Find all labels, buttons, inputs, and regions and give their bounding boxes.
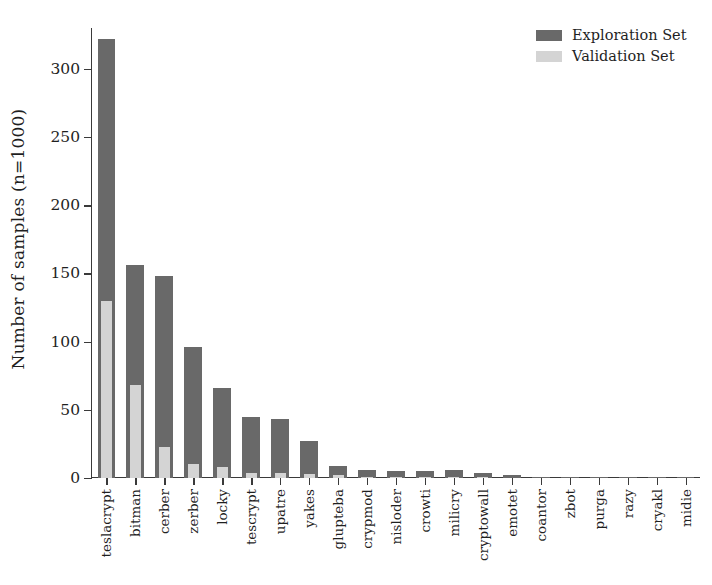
y-axis-tick (84, 342, 92, 343)
x-axis-tick (657, 478, 658, 485)
bar-validation-cerber (159, 447, 170, 478)
x-axis-tick (164, 478, 165, 485)
chart-legend: Exploration SetValidation Set (536, 27, 686, 64)
x-axis-tick (251, 478, 252, 485)
x-axis-tick-label: purga (592, 489, 606, 585)
y-axis-tick-label: 300 (30, 60, 80, 78)
bar-validation-locky (217, 467, 228, 478)
x-axis-tick-label-text: glupteba (330, 489, 346, 549)
y-axis-tick-label: 250 (30, 128, 80, 146)
y-axis-tick (84, 478, 92, 479)
x-axis-tick (512, 478, 513, 485)
x-axis-tick-label-text: teslacrypt (98, 489, 114, 557)
y-axis-tick (84, 69, 92, 70)
legend-swatch-icon (536, 30, 562, 41)
x-axis-tick-label: nisloder (389, 489, 403, 585)
bar-exploration-tescrypt (242, 417, 260, 478)
x-axis-tick (396, 478, 397, 485)
x-axis-tick-label: zerber (186, 489, 200, 585)
bar-chart-figure: Number of samples (n=1000) 0501001502002… (0, 0, 712, 585)
x-axis-tick-label: cryakl (650, 489, 664, 585)
legend-swatch-icon (536, 51, 562, 62)
x-axis-tick-label: tescrypt (244, 489, 258, 585)
x-axis-tick-label-text: nisloder (388, 489, 404, 544)
x-axis-tick-label: glupteba (331, 489, 345, 585)
x-axis-tick-label: coantor (534, 489, 548, 585)
x-axis-tick-label-text: midie (678, 489, 694, 527)
bar-exploration-yakes (300, 441, 318, 478)
x-axis-tick-label: yakes (302, 489, 316, 585)
x-axis-tick-label-text: upatre (272, 489, 288, 534)
x-axis-tick (193, 478, 194, 485)
bars-layer (92, 28, 700, 478)
x-axis-tick-label-text: zbot (562, 489, 578, 518)
legend-item: Validation Set (536, 48, 686, 64)
x-axis-tick-label: zbot (563, 489, 577, 585)
x-axis-tick-label-text: crypmod (359, 489, 375, 549)
x-axis-tick-label: cryptowall (476, 489, 490, 585)
x-axis-tick-label: cerber (157, 489, 171, 585)
y-axis-tick (84, 137, 92, 138)
x-axis-tick (599, 478, 600, 485)
x-axis-tick-label-text: purga (591, 489, 607, 529)
y-axis-tick-label: 50 (30, 401, 80, 419)
x-axis-tick-label-text: zerber (185, 489, 201, 534)
y-axis-tick-label: 150 (30, 264, 80, 282)
bar-validation-zerber (188, 464, 199, 478)
x-axis-tick-label-text: bitman (127, 489, 143, 537)
x-axis-tick-label-text: cryptowall (475, 489, 491, 561)
y-axis-tick-label: 200 (30, 196, 80, 214)
x-axis-tick (541, 478, 542, 485)
y-axis-tick-label: 100 (30, 333, 80, 351)
y-axis-title-text: Number of samples (n=1000) (8, 109, 28, 370)
x-axis-tick-label: bitman (128, 489, 142, 585)
x-axis-tick-label: teslacrypt (99, 489, 113, 585)
x-axis-tick-label: crypmod (360, 489, 374, 585)
y-axis-tick (84, 273, 92, 274)
x-axis-tick (570, 478, 571, 485)
x-axis-tick (483, 478, 484, 485)
x-axis-tick (280, 478, 281, 485)
x-axis-tick (454, 478, 455, 485)
legend-label: Validation Set (572, 48, 674, 64)
bar-exploration-upatre (271, 419, 289, 478)
y-axis-tick (84, 410, 92, 411)
y-axis-tick (84, 205, 92, 206)
legend-label: Exploration Set (572, 27, 686, 43)
x-axis-tick (367, 478, 368, 485)
x-axis-tick (338, 478, 339, 485)
x-axis-tick-label: milicry (447, 489, 461, 585)
x-axis-tick-label-text: emotet (504, 489, 520, 537)
x-axis-tick-label-text: razy (620, 489, 636, 518)
bar-exploration-locky (213, 388, 231, 478)
x-axis-tick-label: midie (679, 489, 693, 585)
x-axis-tick (135, 478, 136, 485)
x-axis-tick-label-text: cerber (156, 489, 172, 534)
x-axis-tick-label-text: yakes (301, 489, 317, 528)
x-axis-tick (106, 478, 107, 485)
x-axis-tick (309, 478, 310, 485)
bar-exploration-zerber (184, 347, 202, 478)
x-axis-tick-label-text: cryakl (649, 489, 665, 531)
legend-item: Exploration Set (536, 27, 686, 43)
y-axis-tick-label: 0 (30, 469, 80, 487)
x-axis-tick (425, 478, 426, 485)
x-axis-tick-label: emotet (505, 489, 519, 585)
x-axis-tick (628, 478, 629, 485)
x-axis-tick-label-text: tescrypt (243, 489, 259, 545)
x-axis-tick (686, 478, 687, 485)
x-axis-tick-label: locky (215, 489, 229, 585)
x-axis-tick-label-text: milicry (446, 489, 462, 536)
x-axis-tick-label-text: crowti (417, 489, 433, 532)
x-axis-tick-label-text: locky (214, 489, 230, 525)
x-axis-tick-label: crowti (418, 489, 432, 585)
x-axis-tick-label: razy (621, 489, 635, 585)
bar-validation-teslacrypt (101, 301, 112, 478)
x-axis-tick-label-text: coantor (533, 489, 549, 541)
bar-validation-bitman (130, 385, 141, 478)
x-axis-tick-label: upatre (273, 489, 287, 585)
x-axis-tick (222, 478, 223, 485)
